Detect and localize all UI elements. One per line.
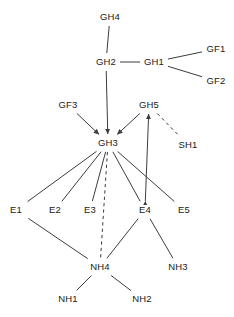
edge-nh4-nh1 bbox=[77, 276, 92, 291]
edge-e4-nh4 bbox=[107, 219, 138, 259]
node-label-nh4: NH4 bbox=[89, 262, 110, 272]
node-label-nh1: NH1 bbox=[57, 294, 78, 304]
edge-gh5-sh1 bbox=[157, 114, 179, 137]
edge-nh4-nh2 bbox=[111, 275, 131, 290]
edge-gf3-gh3 bbox=[77, 114, 99, 135]
node-label-nh3: NH3 bbox=[167, 262, 188, 272]
pedigree-diagram: GH4GH2GH1GF1GF2GF3GH5SH1GH3E1E2E3E4E5NH4… bbox=[0, 0, 234, 317]
edge-e4-gh5 bbox=[145, 114, 148, 201]
node-label-nh2: NH2 bbox=[131, 294, 152, 304]
node-label-gh1: GH1 bbox=[143, 57, 165, 67]
node-label-gh2: GH2 bbox=[95, 57, 117, 67]
node-label-gh5: GH5 bbox=[138, 100, 160, 110]
edge-gh3-e3 bbox=[92, 152, 105, 201]
node-label-e4: E4 bbox=[138, 205, 152, 215]
edge-e1-nh4 bbox=[28, 218, 87, 258]
edge-gh3-e2 bbox=[62, 152, 101, 202]
edge-gh5-gh3 bbox=[117, 114, 140, 135]
node-label-e2: E2 bbox=[48, 205, 62, 215]
node-label-e3: E3 bbox=[83, 205, 97, 215]
node-label-gh3: GH3 bbox=[97, 138, 119, 148]
edge-gh2-gh3 bbox=[106, 71, 108, 134]
node-label-gf3: GF3 bbox=[58, 100, 79, 110]
edge-gh1-gf1 bbox=[168, 52, 202, 59]
edge-gh3-e1 bbox=[28, 151, 97, 201]
edge-e4-nh3 bbox=[150, 219, 173, 258]
node-label-e1: E1 bbox=[9, 205, 23, 215]
node-label-sh1: SH1 bbox=[178, 140, 199, 150]
graph-edges-canvas bbox=[0, 0, 234, 317]
node-label-e5: E5 bbox=[177, 205, 191, 215]
node-label-gh4: GH4 bbox=[99, 12, 121, 22]
edge-gh1-gf2 bbox=[168, 66, 202, 76]
node-label-gf1: GF1 bbox=[206, 44, 227, 54]
edge-gh4-gh2 bbox=[107, 26, 109, 53]
node-label-gf2: GF2 bbox=[206, 76, 227, 86]
